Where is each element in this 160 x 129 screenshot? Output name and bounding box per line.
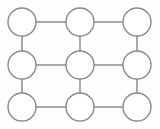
graph-node[interactable] <box>8 93 36 121</box>
graph-node[interactable] <box>123 8 151 36</box>
graph-node[interactable] <box>8 8 36 36</box>
node-layer <box>8 8 151 121</box>
graph-node[interactable] <box>123 51 151 79</box>
graph-node[interactable] <box>66 51 94 79</box>
graph-node[interactable] <box>8 51 36 79</box>
diagram-canvas <box>0 0 160 129</box>
graph-node[interactable] <box>66 8 94 36</box>
graph-node[interactable] <box>123 93 151 121</box>
grid-graph-svg <box>0 0 160 129</box>
graph-node[interactable] <box>66 93 94 121</box>
